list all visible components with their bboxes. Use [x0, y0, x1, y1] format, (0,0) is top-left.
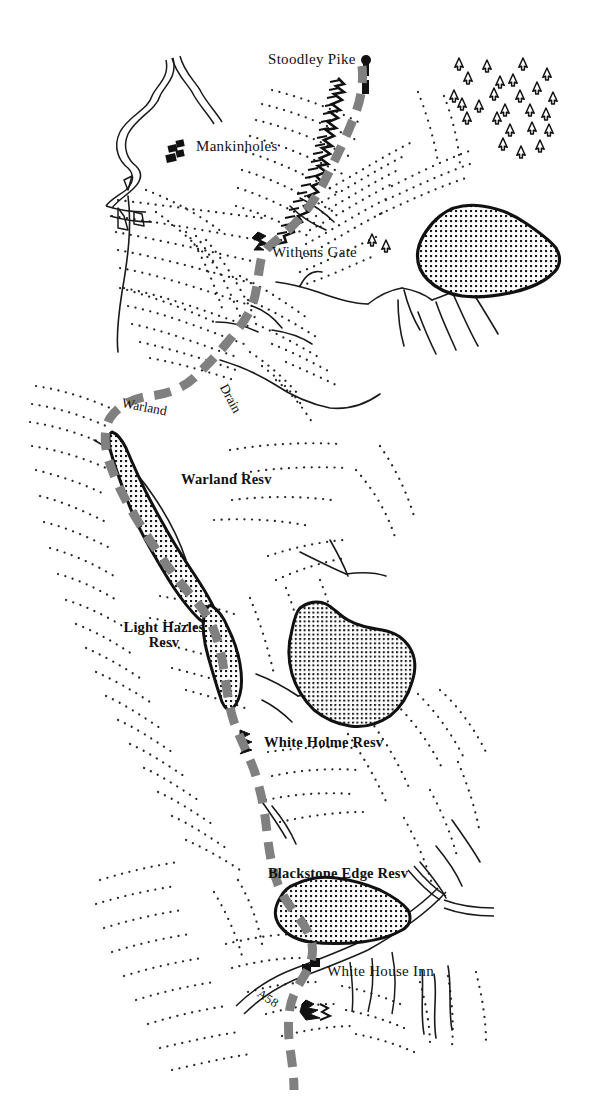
map-vector-layer [0, 0, 589, 1109]
label-withens-gate: Withens Gate [272, 245, 357, 261]
label-white-holme-resv: White Holme Resv [264, 735, 383, 750]
label-mankinholes: Mankinholes [196, 139, 278, 155]
label-white-house-inn: White House Inn [327, 964, 434, 980]
label-warland-resv: Warland Resv [181, 472, 272, 487]
map-canvas: Stoodley Pike Mankinholes Withens Gate D… [0, 0, 589, 1109]
label-blackstone-edge-resv: Blackstone Edge Resv [268, 866, 408, 881]
label-stoodley-pike: Stoodley Pike [268, 52, 356, 68]
label-light-hazles-resv: Light Hazles Resv [112, 620, 216, 650]
